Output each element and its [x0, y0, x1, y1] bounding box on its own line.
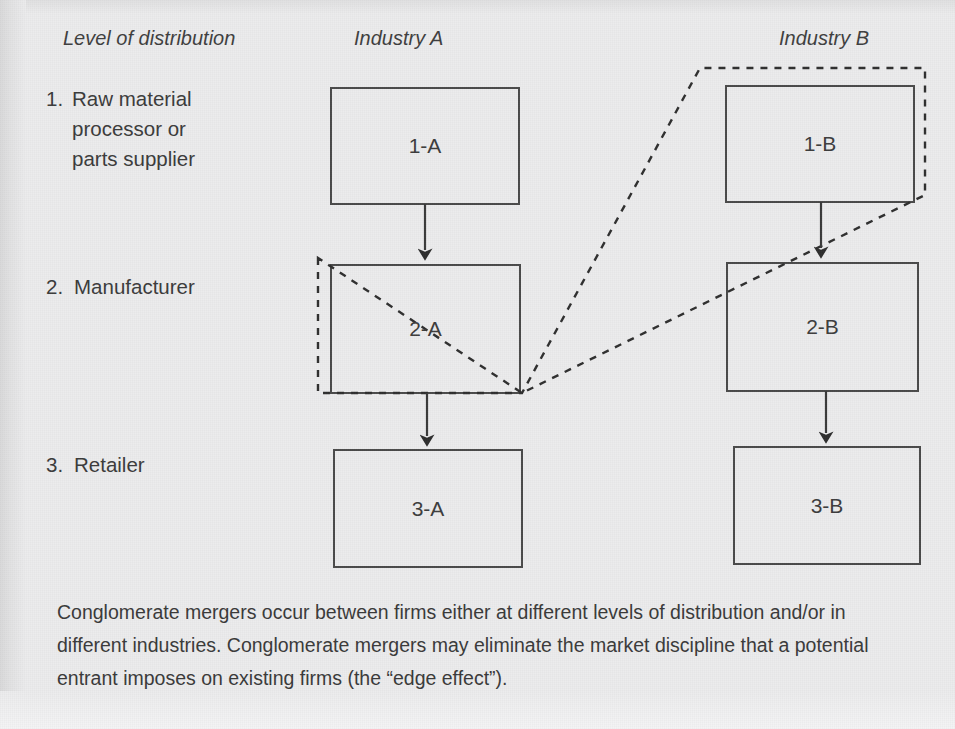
- level-1-number: 1.: [46, 84, 63, 114]
- box-label-2-a: 2-A: [331, 317, 520, 341]
- column-header-industry-a: Industry A: [354, 27, 443, 50]
- box-label-3-b: 3-B: [734, 494, 920, 518]
- level-2-number: 2.: [46, 272, 63, 302]
- level-2-label: Manufacturer: [74, 272, 195, 302]
- box-label-1-a: 1-A: [331, 134, 519, 158]
- conglomerate-merger-outline: [318, 68, 925, 393]
- box-label-3-a: 3-A: [334, 497, 522, 521]
- diagram-caption: Conglomerate mergers occur between firms…: [57, 596, 919, 695]
- column-header-level-of-distribution: Level of distribution: [63, 27, 235, 50]
- diagram-page: Level of distribution Industry A Industr…: [0, 0, 955, 729]
- box-label-2-b: 2-B: [727, 315, 918, 339]
- level-3-label: Retailer: [74, 450, 145, 480]
- column-header-industry-b: Industry B: [779, 27, 869, 50]
- level-3-number: 3.: [46, 450, 63, 480]
- box-label-1-b: 1-B: [726, 132, 914, 156]
- level-1-label: Raw material processor or parts supplier: [72, 84, 195, 174]
